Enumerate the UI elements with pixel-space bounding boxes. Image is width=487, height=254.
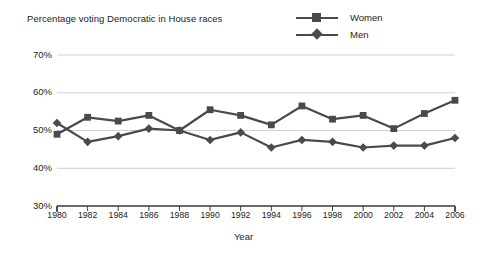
x-axis-tick-label: 2000 xyxy=(346,210,380,220)
data-point-men-2004 xyxy=(420,141,429,150)
data-point-women-1998 xyxy=(329,116,336,123)
data-point-women-1986 xyxy=(145,112,152,119)
x-axis-tick-label: 1996 xyxy=(285,210,319,220)
data-point-men-2000 xyxy=(359,143,368,152)
x-axis-tick-label: 1998 xyxy=(316,210,350,220)
data-point-women-1982 xyxy=(84,114,91,121)
data-point-men-1996 xyxy=(298,136,307,145)
x-axis-tick-label: 1982 xyxy=(71,210,105,220)
data-point-women-1980 xyxy=(54,131,61,138)
data-point-women-1996 xyxy=(299,103,306,110)
data-point-men-1994 xyxy=(267,143,276,152)
x-axis-tick-label: 1992 xyxy=(224,210,258,220)
y-axis-tick-label: 50% xyxy=(18,124,52,135)
data-point-men-2006 xyxy=(451,134,460,143)
data-point-women-1990 xyxy=(207,106,214,113)
data-point-men-1990 xyxy=(206,136,215,145)
x-axis-tick-label: 1988 xyxy=(162,210,196,220)
data-point-men-2002 xyxy=(389,141,398,150)
x-axis-title: Year xyxy=(0,231,487,242)
data-point-men-1984 xyxy=(114,132,123,141)
data-point-women-1992 xyxy=(237,112,244,119)
x-axis-tick-label: 2006 xyxy=(438,210,472,220)
data-point-men-1998 xyxy=(328,138,337,147)
data-point-men-1992 xyxy=(236,128,245,137)
data-point-women-1994 xyxy=(268,121,275,128)
x-axis-tick-label: 2002 xyxy=(377,210,411,220)
x-axis-tick-label: 1986 xyxy=(132,210,166,220)
y-axis-tick-label: 30% xyxy=(18,200,52,211)
x-axis-tick-label: 1990 xyxy=(193,210,227,220)
y-axis-tick-label: 40% xyxy=(18,162,52,173)
x-axis-tick-label: 1980 xyxy=(40,210,74,220)
data-point-women-2000 xyxy=(360,112,367,119)
x-axis-tick-label: 1984 xyxy=(101,210,135,220)
data-point-men-1986 xyxy=(145,124,154,133)
data-point-women-2004 xyxy=(421,110,428,117)
x-axis-tick-label: 2004 xyxy=(407,210,441,220)
data-point-women-1984 xyxy=(115,118,122,125)
y-axis-tick-label: 70% xyxy=(18,49,52,60)
chart-container: Percentage voting Democratic in House ra… xyxy=(0,0,487,254)
data-point-women-2002 xyxy=(390,125,397,132)
data-point-women-2006 xyxy=(452,97,459,104)
x-axis-tick-label: 1994 xyxy=(254,210,288,220)
y-axis-tick-label: 60% xyxy=(18,86,52,97)
